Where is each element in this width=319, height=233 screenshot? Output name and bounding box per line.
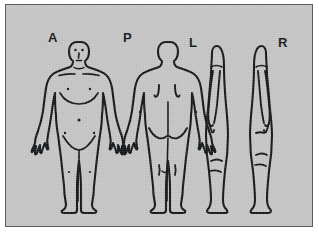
left-lateral-knee-mark — [211, 160, 222, 162]
right-lateral-knee-mark — [256, 154, 267, 156]
posterior-right-gluteal-fold — [169, 128, 187, 138]
anterior-left-nipple-mark — [67, 88, 69, 90]
left-lateral-arm-back-line — [214, 71, 220, 123]
anterior-right-clavicle — [83, 74, 99, 76]
right-lateral-arm-back-line — [258, 71, 264, 123]
posterior-left-scapula-mark — [155, 85, 160, 97]
posterior-left-popliteal-mark — [159, 165, 160, 175]
posterior-left-knee-crease — [162, 171, 167, 173]
posterior-right-scapula-mark — [175, 85, 180, 97]
anterior-costal-margin — [60, 93, 98, 104]
anterior-right-iliac-mark — [93, 132, 95, 134]
anterior-left-eye-mark — [74, 49, 77, 52]
anterior-right-nipple-mark — [89, 88, 91, 90]
posterior-right-popliteal-mark — [175, 165, 176, 175]
anterior-right-knee-mark — [89, 171, 91, 173]
anterior-view-label: A — [48, 31, 57, 44]
right-lateral-popliteal-mark — [255, 164, 266, 166]
anterior-navel-mark — [78, 119, 81, 122]
posterior-left-flank-mark — [139, 111, 141, 113]
right-lateral-body-outline — [250, 46, 272, 213]
right-lateral-flank-mark — [256, 132, 264, 133]
posterior-view-label: P — [123, 31, 132, 44]
anterior-neck-line — [74, 68, 84, 69]
anterior-left-clavicle — [59, 74, 75, 76]
anterior-inguinal-line — [63, 136, 95, 150]
anterior-figure — [32, 42, 127, 213]
left-lateral-popliteal-mark — [210, 170, 221, 172]
right-lateral-figure — [250, 46, 272, 213]
posterior-leg-gap-line — [167, 138, 168, 201]
anterior-left-knee-mark — [68, 171, 70, 173]
posterior-figure — [121, 42, 216, 213]
anterior-right-eye-mark — [81, 49, 84, 52]
anterior-body-outline — [32, 42, 127, 213]
anterior-leg-gap-line — [78, 157, 79, 201]
anterior-left-iliac-mark — [64, 132, 66, 134]
diagram-frame: A P L R — [5, 4, 313, 227]
body-diagram-figure: A P L R — [0, 0, 319, 233]
left-lateral-shoulder-line — [211, 66, 222, 68]
posterior-left-gluteal-fold — [149, 128, 167, 138]
right-lateral-view-label: R — [278, 36, 287, 49]
right-lateral-shoulder-line — [256, 66, 267, 68]
posterior-right-flank-mark — [195, 111, 197, 113]
left-lateral-view-label: L — [189, 36, 197, 49]
